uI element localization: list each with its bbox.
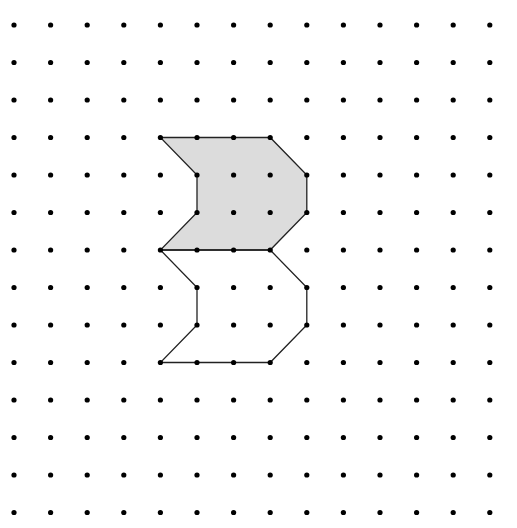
grid-dot [487, 510, 492, 515]
grid-dot [487, 22, 492, 27]
grid-dot [341, 172, 346, 177]
grid-dot [231, 210, 236, 215]
grid-dot [304, 22, 309, 27]
grid-dot [341, 322, 346, 327]
grid-dot [231, 510, 236, 515]
grid-dot [121, 472, 126, 477]
grid-dot [85, 285, 90, 290]
grid-dot [414, 360, 419, 365]
grid-dot [85, 135, 90, 140]
grid-dot [304, 360, 309, 365]
grid-dot [268, 322, 273, 327]
grid-dot [194, 135, 199, 140]
grid-dot [11, 472, 16, 477]
grid-dot [194, 97, 199, 102]
grid-dot [414, 247, 419, 252]
grid-dot [268, 360, 273, 365]
grid-dot [451, 435, 456, 440]
grid-dot [487, 247, 492, 252]
grid-dot [121, 172, 126, 177]
grid-dot [341, 472, 346, 477]
grid-dot [487, 60, 492, 65]
grid-dot [304, 247, 309, 252]
grid-dot [268, 172, 273, 177]
grid-dot [341, 135, 346, 140]
grid-dot [158, 397, 163, 402]
grid-dot [158, 210, 163, 215]
grid-dot [304, 472, 309, 477]
grid-dot [451, 285, 456, 290]
grid-dot [231, 172, 236, 177]
grid-dot [48, 322, 53, 327]
grid-dot [268, 60, 273, 65]
grid-dot [158, 247, 163, 252]
grid-dot [304, 210, 309, 215]
grid-dot [11, 135, 16, 140]
grid-dot [11, 210, 16, 215]
grid-dot [377, 172, 382, 177]
grid-dot [48, 435, 53, 440]
grid-dot [268, 435, 273, 440]
grid-dot [194, 172, 199, 177]
grid-dot [158, 172, 163, 177]
grid-dot [194, 247, 199, 252]
grid-dot [48, 472, 53, 477]
grid-dot [268, 285, 273, 290]
grid-dot [414, 135, 419, 140]
grid-dot [231, 97, 236, 102]
grid-dot [48, 397, 53, 402]
grid-dot [377, 472, 382, 477]
grid-dot [304, 435, 309, 440]
grid-dot [341, 285, 346, 290]
grid-dot [268, 247, 273, 252]
grid-dot [11, 172, 16, 177]
grid-dot [487, 397, 492, 402]
grid-dot [158, 322, 163, 327]
grid-dot [194, 510, 199, 515]
grid-dot [304, 397, 309, 402]
grid-dot [341, 360, 346, 365]
grid-dot [194, 60, 199, 65]
grid-dot [304, 285, 309, 290]
grid-dot [158, 97, 163, 102]
grid-dot [194, 360, 199, 365]
grid-dot [194, 472, 199, 477]
grid-dot [414, 435, 419, 440]
grid-dot [304, 172, 309, 177]
grid-dot [487, 172, 492, 177]
grid-dot [268, 97, 273, 102]
grid-dot [451, 472, 456, 477]
grid-dot [48, 247, 53, 252]
grid-dot [304, 510, 309, 515]
grid-dot [451, 97, 456, 102]
grid-dot [231, 247, 236, 252]
grid-dot [414, 172, 419, 177]
grid-dot [121, 22, 126, 27]
grid-dot [194, 397, 199, 402]
grid-dot [341, 397, 346, 402]
grid-dot [11, 360, 16, 365]
grid-dot [377, 435, 382, 440]
grid-dot [304, 322, 309, 327]
grid-dot [451, 322, 456, 327]
grid-dot [487, 135, 492, 140]
grid-dot [341, 22, 346, 27]
grid-dot [11, 97, 16, 102]
grid-dot [377, 285, 382, 290]
grid-dot [341, 510, 346, 515]
grid-dot [487, 210, 492, 215]
grid-dot [414, 97, 419, 102]
grid-dot [268, 472, 273, 477]
grid-dot [158, 135, 163, 140]
grid-dot [48, 172, 53, 177]
grid-dot [11, 60, 16, 65]
grid-dot [377, 60, 382, 65]
grid-dot [377, 397, 382, 402]
grid-dot [341, 435, 346, 440]
grid-dot [231, 397, 236, 402]
grid-dot [414, 322, 419, 327]
grid-dot [414, 22, 419, 27]
grid-dot [377, 322, 382, 327]
grid-dot [85, 397, 90, 402]
grid-dot [231, 472, 236, 477]
